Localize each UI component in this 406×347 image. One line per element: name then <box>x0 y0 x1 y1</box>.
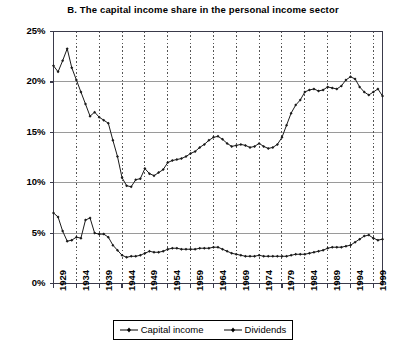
data-point-marker <box>157 251 160 254</box>
data-point-marker <box>180 157 183 160</box>
data-point-marker <box>285 255 288 258</box>
data-point-marker <box>253 255 256 258</box>
data-point-marker <box>376 239 379 242</box>
x-axis-label: 1979 <box>286 269 296 290</box>
chart-figure: B. The capital income share in the perso… <box>0 0 406 347</box>
data-point-marker <box>116 155 119 158</box>
data-point-marker <box>303 253 306 256</box>
data-point-marker <box>171 159 174 162</box>
data-point-marker <box>226 250 229 253</box>
y-axis-label: 0% <box>10 278 46 288</box>
data-point-marker <box>381 238 384 241</box>
x-axis-label: 1954 <box>172 269 182 290</box>
series-line-dividends <box>54 213 383 257</box>
data-point-marker <box>111 139 114 142</box>
data-point-marker <box>180 248 183 251</box>
data-point-marker <box>262 255 265 258</box>
data-point-marker <box>312 251 315 254</box>
plot-area <box>0 0 406 347</box>
data-point-marker <box>299 253 302 256</box>
data-point-marker <box>139 177 142 180</box>
data-point-marker <box>267 255 270 258</box>
data-point-marker <box>258 254 261 257</box>
legend-entry-capital-income: Capital income <box>120 325 204 335</box>
data-point-marker <box>185 248 188 251</box>
x-axis-label: 1974 <box>264 269 274 290</box>
data-point-marker <box>198 247 201 250</box>
x-axis-label: 1959 <box>195 269 205 290</box>
data-point-marker <box>75 78 78 81</box>
data-point-marker <box>66 47 69 50</box>
y-axis-label: 15% <box>10 127 46 137</box>
x-axis-label: 1999 <box>378 269 388 290</box>
data-point-marker <box>70 66 73 69</box>
data-point-marker <box>308 88 311 91</box>
data-point-marker <box>84 103 87 106</box>
y-axis-label: 10% <box>10 177 46 187</box>
chart-legend: Capital income Dividends <box>113 320 293 340</box>
data-point-marker <box>239 143 242 146</box>
data-point-marker <box>331 246 334 249</box>
data-point-marker <box>221 248 224 251</box>
data-point-marker <box>326 247 329 250</box>
data-point-marker <box>308 252 311 255</box>
data-point-marker <box>239 254 242 257</box>
data-point-marker <box>267 147 270 150</box>
legend-label-dividends: Dividends <box>245 325 287 335</box>
x-axis-label: 1934 <box>81 269 91 290</box>
data-point-marker <box>312 87 315 90</box>
data-point-marker <box>175 158 178 161</box>
data-point-marker <box>207 247 210 250</box>
data-point-marker <box>79 90 82 93</box>
data-point-marker <box>235 144 238 147</box>
data-point-marker <box>153 251 156 254</box>
y-axis-label: 5% <box>10 228 46 238</box>
data-point-marker <box>139 254 142 257</box>
data-point-marker <box>335 246 338 249</box>
x-axis-label: 1939 <box>104 269 114 290</box>
x-axis-label: 1984 <box>309 269 319 290</box>
data-point-marker <box>244 255 247 258</box>
x-axis-label: 1989 <box>332 269 342 290</box>
data-point-marker <box>290 254 293 257</box>
data-point-marker <box>143 252 146 255</box>
data-point-marker <box>331 86 334 89</box>
data-point-marker <box>61 59 64 62</box>
data-point-marker <box>244 144 247 147</box>
data-point-marker <box>280 255 283 258</box>
data-point-marker <box>89 216 92 219</box>
y-axis-label: 25% <box>10 26 46 36</box>
data-point-marker <box>285 124 288 127</box>
data-point-marker <box>230 252 233 255</box>
data-point-marker <box>66 240 69 243</box>
data-point-marker <box>130 255 133 258</box>
data-point-marker <box>166 248 169 251</box>
data-point-marker <box>162 250 165 253</box>
plot-frame <box>54 32 383 284</box>
data-point-marker <box>175 247 178 250</box>
series-line-capital-income <box>54 49 383 187</box>
data-point-marker <box>203 247 206 250</box>
x-axis-label: 1994 <box>355 269 365 290</box>
data-point-marker <box>276 255 279 258</box>
data-point-marker <box>248 255 251 258</box>
x-axis-label: 1969 <box>241 269 251 290</box>
data-point-marker <box>79 237 82 240</box>
data-point-marker <box>317 89 320 92</box>
legend-key-capital-income <box>120 326 138 334</box>
data-point-marker <box>93 232 96 235</box>
data-point-marker <box>189 248 192 251</box>
x-axis-label: 1929 <box>58 269 68 290</box>
x-axis-label: 1949 <box>149 269 159 290</box>
x-axis-label: 1964 <box>218 269 228 290</box>
x-axis-label: 1944 <box>127 269 137 290</box>
data-point-marker <box>194 248 197 251</box>
y-axis-label: 20% <box>10 76 46 86</box>
legend-key-dividends <box>224 326 242 334</box>
data-point-marker <box>125 256 128 259</box>
data-point-marker <box>340 246 343 249</box>
data-point-marker <box>344 245 347 248</box>
data-point-marker <box>271 255 274 258</box>
data-point-marker <box>294 253 297 256</box>
data-point-marker <box>212 246 215 249</box>
